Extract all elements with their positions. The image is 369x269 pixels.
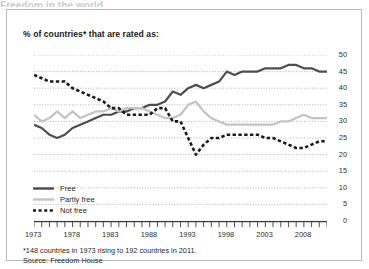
legend-item-partly-free: Partly free: [33, 194, 153, 205]
cut-off-headline: Freedom in the world: [0, 0, 369, 7]
legend-label-not-free: Not free: [60, 206, 87, 215]
legend-swatch-partly-free: [33, 195, 54, 204]
y-tick-label: 0: [331, 217, 347, 225]
x-axis: [34, 221, 327, 229]
chart-subtitle: % of countries* that are rated as:: [23, 29, 159, 39]
y-tick-label: 15: [331, 167, 347, 175]
legend-swatch-not-free: [33, 206, 54, 215]
x-tick-label: 2003: [256, 230, 272, 239]
legend-label-partly-free: Partly free: [60, 195, 95, 204]
y-tick-label: 10: [331, 184, 347, 192]
x-tick-label: 1998: [218, 230, 234, 239]
x-axis-ticks: [34, 221, 327, 229]
y-tick-label: 30: [331, 117, 347, 125]
legend-label-free: Free: [60, 184, 76, 193]
chart-legend: Free Partly free Not free: [33, 183, 153, 216]
y-tick-label: 45: [331, 68, 347, 76]
y-tick-label: 40: [331, 84, 347, 92]
chart-panel: % of countries* that are rated as: 05101…: [6, 9, 362, 261]
chart-notes: *148 countries in 1973 rising to 192 cou…: [23, 246, 353, 266]
x-tick-label: 1973: [25, 230, 41, 239]
source-line: Source: Freedom House: [23, 256, 353, 266]
y-tick-label: 35: [331, 101, 347, 109]
x-tick-label: 2008: [295, 230, 311, 239]
x-tick-label: 1988: [141, 230, 157, 239]
x-tick-label: 1983: [102, 230, 118, 239]
x-tick-label: 1993: [179, 230, 195, 239]
x-axis-labels: 19731978198319881993199820032008: [27, 230, 347, 241]
y-tick-label: 25: [331, 134, 347, 142]
x-tick-label: 1978: [64, 230, 80, 239]
legend-item-free: Free: [33, 183, 153, 194]
chart-figure: Freedom in the world % of countries* tha…: [0, 0, 369, 269]
legend-swatch-free: [33, 184, 54, 193]
y-axis-labels: 05101520253035404550: [331, 51, 357, 225]
footnote: *148 countries in 1973 rising to 192 cou…: [23, 246, 353, 256]
legend-item-not-free: Not free: [33, 205, 153, 216]
y-tick-label: 50: [331, 51, 347, 59]
series-line-free: [34, 65, 327, 138]
y-tick-label: 20: [331, 151, 347, 159]
y-tick-label: 5: [331, 200, 347, 208]
